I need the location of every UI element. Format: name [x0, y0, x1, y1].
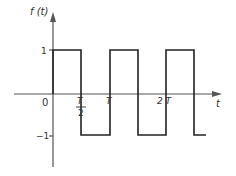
square-wave-chart: f (t) t 0 1 −1 T 2 T 2 T	[0, 0, 236, 176]
y-axis-arrow-icon	[50, 12, 56, 22]
y-axis-label: f (t)	[30, 6, 48, 17]
x-tick-label-T: T	[106, 96, 113, 106]
x-axis-arrow-icon	[212, 91, 222, 97]
y-tick-label-minus-1: −1	[36, 131, 49, 141]
x-tick-label-2T: 2 T	[157, 96, 173, 106]
x-axis-label: t	[216, 98, 221, 109]
square-wave-series	[53, 50, 206, 135]
x-tick-label-half-T-numerator: T	[77, 96, 84, 106]
y-tick-label-1: 1	[41, 46, 47, 56]
x-tick-label-half-T-denominator: 2	[78, 108, 84, 118]
plot-area: f (t) t 0 1 −1 T 2 T 2 T	[0, 0, 236, 176]
origin-label: 0	[42, 97, 48, 108]
